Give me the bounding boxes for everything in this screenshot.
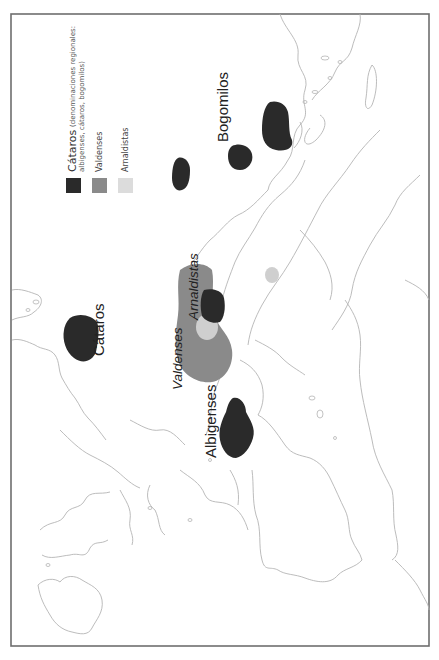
legend-swatch-arnaldistas	[118, 178, 133, 193]
legend-label-valdenses: Valdenses	[95, 132, 104, 172]
label-arnaldistas: Arnaldistas	[186, 253, 201, 321]
heresy-map: Cátaros Bogomilos Albigenses Valdenses A…	[0, 0, 439, 660]
region-cataros-italy	[201, 289, 225, 322]
legend-swatch-cataros	[66, 178, 81, 193]
legend-note-line1: (denominaciones regionales:	[69, 26, 77, 127]
label-cataros: Cátaros	[90, 303, 107, 356]
legend-note-line2: albigenses, cátaros, bogomilos)	[78, 61, 86, 172]
label-bogomilos: Bogomilos	[214, 72, 231, 142]
legend-swatch-valdenses	[92, 178, 107, 193]
legend-label-arnaldistas: Arnaldistas	[121, 128, 130, 173]
region-arnaldistas-east	[265, 267, 279, 283]
label-albigenses: Albigenses	[202, 385, 219, 458]
label-valdenses: Valdenses	[170, 327, 185, 390]
